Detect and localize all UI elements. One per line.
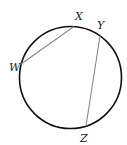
label-z: Z (79, 132, 88, 145)
circle (20, 27, 122, 129)
label-x: X (74, 10, 84, 23)
label-y: Y (97, 19, 106, 32)
chord-yz (86, 36, 100, 126)
label-w: W (9, 61, 22, 74)
circle-diagram: W X Y Z (0, 0, 127, 145)
